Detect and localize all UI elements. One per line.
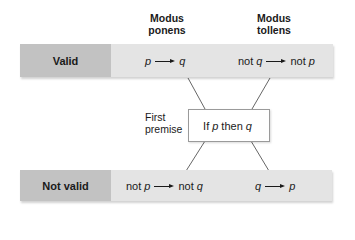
row-label-not-valid: Not valid — [20, 170, 111, 201]
row-label-valid: Valid — [20, 44, 111, 77]
formula-var: p — [145, 55, 151, 67]
formula-var: q — [256, 55, 262, 67]
formula-modus-tollens: not q not p — [238, 54, 315, 68]
premise-q: q — [246, 120, 252, 132]
premise-label-line1: First — [145, 111, 182, 123]
premise-label-line2: premise — [145, 123, 182, 135]
formula-modus-ponens: p q — [145, 54, 185, 68]
formula-var: q — [179, 55, 185, 67]
formula-prefix: not — [178, 180, 193, 192]
formula-prefix: not — [126, 180, 141, 192]
arrow-icon — [266, 57, 286, 65]
formula-var: q — [197, 180, 203, 192]
formula-prefix: not — [238, 55, 253, 67]
formula-var: q — [255, 180, 261, 192]
formula-affirming-consequent: q p — [255, 179, 295, 193]
arrow-icon — [154, 182, 174, 190]
formula-var: p — [289, 180, 295, 192]
arrow-icon — [265, 182, 285, 190]
connector-ponens-valid — [188, 78, 205, 109]
formula-var: p — [309, 55, 315, 67]
connector-tollens-valid — [252, 78, 270, 109]
first-premise-label: First premise — [145, 111, 182, 135]
first-premise-box: If p then q — [188, 109, 270, 142]
connector-denying-antecedent — [186, 141, 205, 171]
formula-var: p — [144, 180, 150, 192]
premise-then: then — [221, 120, 242, 132]
premise-if: If — [203, 120, 209, 132]
formula-prefix: not — [290, 55, 305, 67]
arrow-icon — [155, 57, 175, 65]
row-not-valid: Not valid not p not q q p — [20, 170, 332, 201]
row-valid: Valid p q not q not p — [20, 44, 333, 77]
formula-denying-antecedent: not p not q — [126, 179, 203, 193]
connector-affirming-consequent — [251, 141, 269, 171]
premise-p: p — [212, 120, 218, 132]
